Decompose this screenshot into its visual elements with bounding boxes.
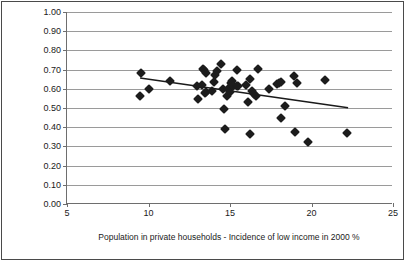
y-tick-label: 0.40 bbox=[43, 123, 61, 132]
plot-area: 0.000.100.200.300.400.500.600.700.800.90… bbox=[66, 12, 392, 204]
y-tick-label: 0.50 bbox=[43, 104, 61, 113]
x-tick-label: 25 bbox=[388, 209, 398, 218]
y-tick-label: 0.70 bbox=[43, 65, 61, 74]
y-tick-label: 0.20 bbox=[43, 161, 61, 170]
y-tick-label: 0.00 bbox=[43, 200, 61, 209]
plot-wrapper: 0.000.100.200.300.400.500.600.700.800.90… bbox=[66, 12, 392, 204]
x-tick-mark bbox=[393, 203, 394, 207]
y-tick-label: 0.30 bbox=[43, 142, 61, 151]
x-tick-label: 15 bbox=[225, 209, 235, 218]
y-axis-title: Proportion of people who report 'People … bbox=[8, 0, 30, 34]
x-tick-label: 20 bbox=[306, 209, 316, 218]
y-tick-label: 0.80 bbox=[43, 46, 61, 55]
y-tick-label: 0.10 bbox=[43, 180, 61, 189]
y-tick-label: 0.60 bbox=[43, 84, 61, 93]
chart-figure: Proportion of people who report 'People … bbox=[0, 0, 407, 263]
trendline bbox=[67, 12, 392, 203]
x-tick-mark bbox=[149, 203, 150, 207]
x-axis-title: Population in private households - Incid… bbox=[66, 233, 392, 242]
y-tick-label: 0.90 bbox=[43, 27, 61, 36]
x-tick-mark bbox=[230, 203, 231, 207]
x-tick-label: 10 bbox=[143, 209, 153, 218]
x-tick-label: 5 bbox=[64, 209, 69, 218]
y-tick-label: 1.00 bbox=[43, 8, 61, 17]
x-tick-mark bbox=[312, 203, 313, 207]
x-tick-mark bbox=[67, 203, 68, 207]
